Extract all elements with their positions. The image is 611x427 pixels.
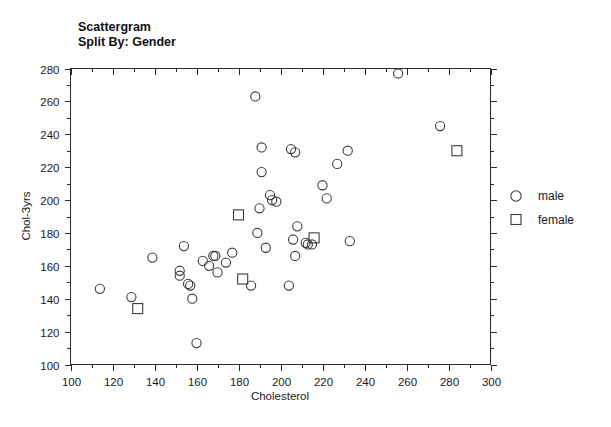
legend-marker-male-circle-icon [511, 191, 521, 201]
y-tick-label: 220 [40, 162, 59, 174]
data-point-female [234, 210, 244, 220]
data-point-male [205, 261, 214, 270]
plot-frame [71, 69, 491, 365]
data-point-male [291, 251, 300, 260]
data-point-male [186, 281, 195, 290]
x-tick-label: 100 [62, 376, 81, 388]
data-point-male [95, 284, 104, 293]
x-tick-label: 280 [440, 376, 459, 388]
x-tick-label: 240 [356, 376, 375, 388]
y-tick-label: 280 [40, 64, 59, 76]
y-tick-label: 260 [40, 96, 59, 108]
chart-title: Scattergram [78, 20, 151, 34]
data-point-male [284, 281, 293, 290]
x-tick-label: 160 [188, 376, 207, 388]
y-tick-label: 160 [40, 261, 59, 273]
data-point-male [436, 121, 445, 130]
y-tick-label: 100 [40, 360, 59, 372]
legend: male female [511, 189, 575, 227]
data-point-male [257, 168, 266, 177]
x-tick-label: 300 [482, 376, 501, 388]
data-point-male [322, 194, 331, 203]
legend-marker-female-square-icon [511, 215, 521, 225]
data-point-male [251, 92, 260, 101]
y-axis-title: Chol-3yrs [20, 191, 32, 240]
data-point-male [192, 339, 201, 348]
data-point-male [211, 251, 220, 260]
data-point-female [238, 274, 248, 284]
data-point-male [333, 159, 342, 168]
x-tick-label: 120 [104, 376, 123, 388]
data-point-male [127, 292, 136, 301]
data-point-male [253, 228, 262, 237]
x-axis-title: Cholesterol [251, 390, 309, 402]
data-point-male [209, 251, 218, 260]
y-axis-ticks: 100120140160180200220240260280 [40, 64, 496, 372]
x-tick-label: 220 [314, 376, 333, 388]
scatter-plot-svg: Scattergram Split By: Gender 10012014016… [0, 0, 611, 427]
data-point-male [255, 204, 264, 213]
data-point-male [179, 242, 188, 251]
y-tick-label: 140 [40, 294, 59, 306]
y-tick-label: 180 [40, 228, 59, 240]
data-point-male [228, 248, 237, 257]
legend-label-male: male [538, 189, 564, 203]
data-point-male [257, 143, 266, 152]
data-point-male [343, 146, 352, 155]
x-tick-label: 180 [230, 376, 249, 388]
series-female-points [133, 146, 462, 314]
data-point-male [289, 235, 298, 244]
data-point-male [213, 268, 222, 277]
x-axis-ticks: 100120140160180200220240260280300 [62, 69, 501, 388]
y-tick-label: 200 [40, 195, 59, 207]
data-point-female [452, 146, 462, 156]
y-tick-label: 240 [40, 129, 59, 141]
data-point-male [318, 181, 327, 190]
x-tick-label: 200 [272, 376, 291, 388]
data-point-male [148, 253, 157, 262]
series-male-points [95, 69, 444, 348]
data-point-male [221, 258, 230, 267]
x-tick-label: 140 [146, 376, 165, 388]
data-point-male [198, 256, 207, 265]
chart-subtitle: Split By: Gender [78, 35, 176, 49]
data-point-male [261, 243, 270, 252]
data-point-female [133, 304, 143, 314]
data-point-male [293, 222, 302, 231]
y-tick-label: 120 [40, 327, 59, 339]
data-point-male [188, 294, 197, 303]
data-point-male [345, 237, 354, 246]
data-point-male [394, 69, 403, 78]
legend-label-female: female [538, 213, 574, 227]
x-tick-label: 260 [398, 376, 417, 388]
scattergram-figure: Scattergram Split By: Gender 10012014016… [0, 0, 611, 427]
